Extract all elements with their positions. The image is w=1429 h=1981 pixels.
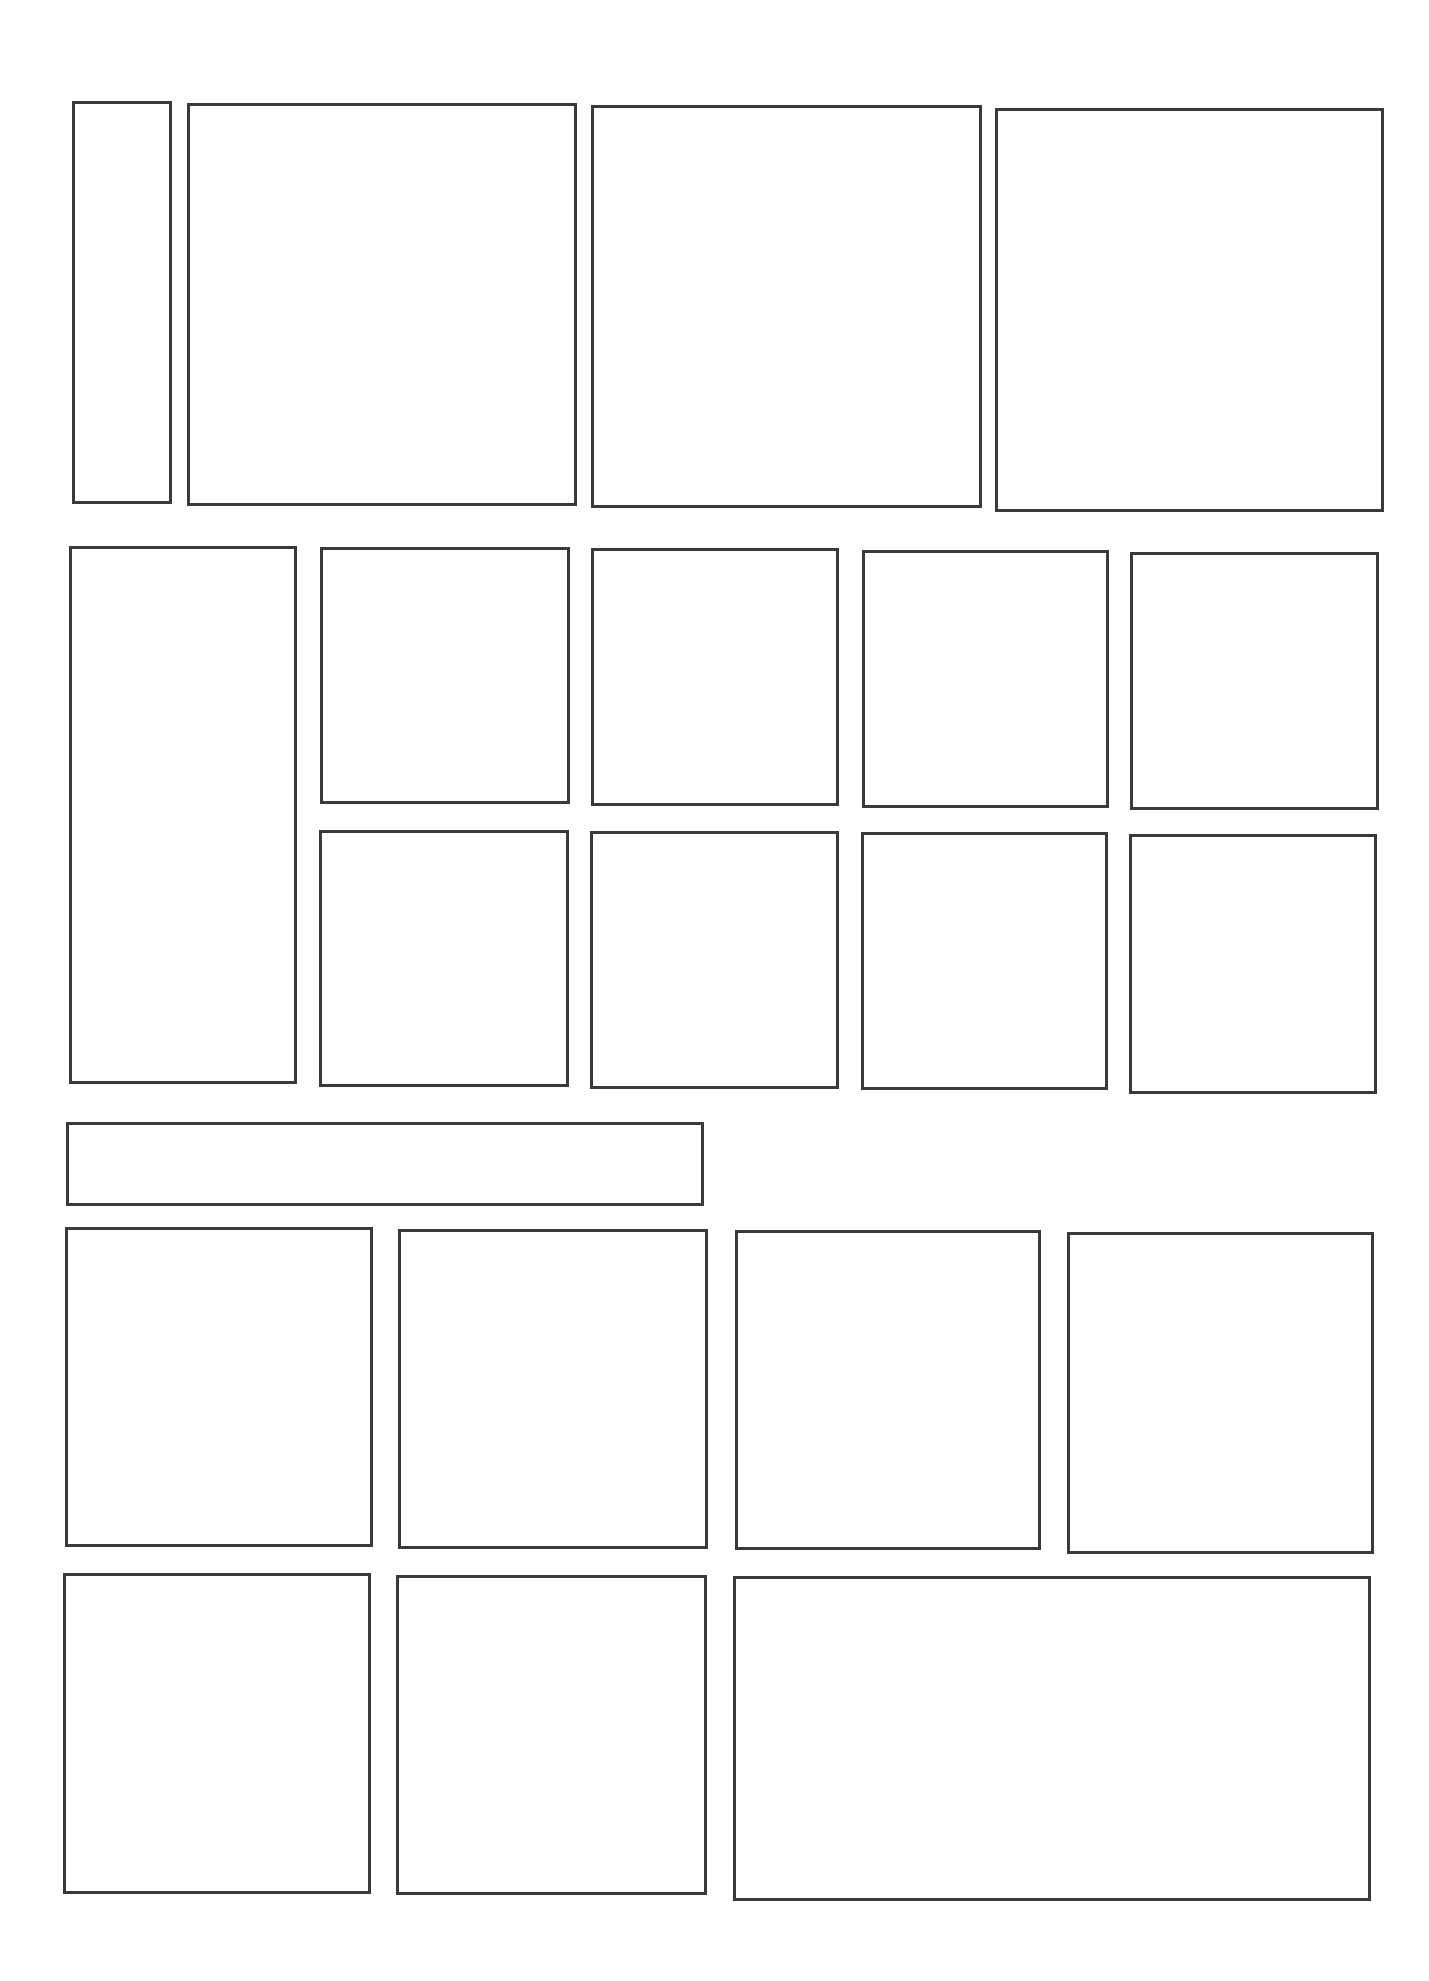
comic-panel-p7 (591, 548, 839, 806)
comic-panel-p19 (63, 1573, 371, 1894)
comic-panel-p6 (320, 547, 570, 804)
comic-panel-p14 (66, 1122, 704, 1206)
comic-panel-p18 (1067, 1232, 1374, 1554)
comic-panel-p17 (735, 1230, 1041, 1550)
comic-panel-p12 (861, 832, 1108, 1090)
comic-panel-p11 (590, 831, 839, 1089)
comic-panel-p5 (69, 546, 297, 1084)
comic-panel-p10 (319, 830, 569, 1087)
comic-panel-p2 (187, 103, 577, 506)
comic-panel-p15 (65, 1227, 373, 1547)
comic-panel-p9 (1130, 552, 1379, 810)
comic-panel-p3 (591, 105, 982, 508)
comic-panel-p4 (995, 108, 1384, 512)
comic-panel-p20 (396, 1575, 707, 1895)
comic-panel-p13 (1129, 834, 1377, 1094)
comic-panel-p16 (398, 1229, 708, 1549)
comic-page (0, 0, 1429, 1981)
comic-panel-p1 (72, 101, 172, 504)
comic-panel-p8 (862, 550, 1109, 808)
comic-panel-p21 (733, 1576, 1371, 1901)
